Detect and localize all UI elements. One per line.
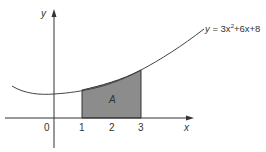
curve-equation-label: y = 3x2+6x+8 bbox=[204, 23, 260, 34]
tick-label-3: 3 bbox=[138, 122, 144, 133]
x-axis-label: x bbox=[183, 122, 190, 133]
tick-label-2: 2 bbox=[109, 122, 115, 133]
x-axis-arrow-icon bbox=[186, 116, 194, 121]
curve bbox=[12, 29, 204, 94]
y-axis-arrow-icon bbox=[52, 9, 57, 17]
y-axis-label: y bbox=[40, 8, 47, 19]
origin-label: 0 bbox=[44, 122, 50, 133]
tick-label-1: 1 bbox=[79, 122, 85, 133]
region-label: A bbox=[108, 94, 116, 105]
area-under-curve-chart: y x 0 1 2 3 A y = 3x2+6x+8 bbox=[0, 0, 266, 152]
